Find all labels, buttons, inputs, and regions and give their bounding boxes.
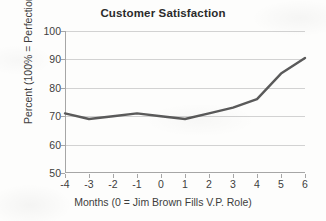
x-tick-label-10: 6	[290, 178, 320, 190]
y-tick-label-80: 80	[17, 82, 61, 94]
y-tick-mark-90	[61, 59, 65, 60]
chart-container: Customer Satisfaction Percent (100% = Pe…	[0, 0, 326, 221]
y-tick-label-100: 100	[17, 25, 61, 37]
plot-area	[65, 31, 305, 173]
y-tick-mark-70	[61, 116, 65, 117]
series-line-chart	[65, 31, 305, 173]
x-axis-title: Months (0 = Jim Brown Fills V.P. Role)	[0, 196, 326, 208]
chart-title: Customer Satisfaction	[0, 7, 326, 19]
y-tick-mark-60	[61, 145, 65, 146]
x-axis-tick-labels: -4-3-2-10123456	[65, 178, 305, 192]
y-tick-label-70: 70	[17, 110, 61, 122]
y-tick-label-60: 60	[17, 139, 61, 151]
y-tick-label-90: 90	[17, 53, 61, 65]
y-tick-mark-100	[61, 31, 65, 32]
y-axis-tick-labels: 5060708090100	[14, 31, 61, 173]
y-tick-mark-80	[61, 88, 65, 89]
series-line-customer-satisfaction	[65, 58, 305, 119]
